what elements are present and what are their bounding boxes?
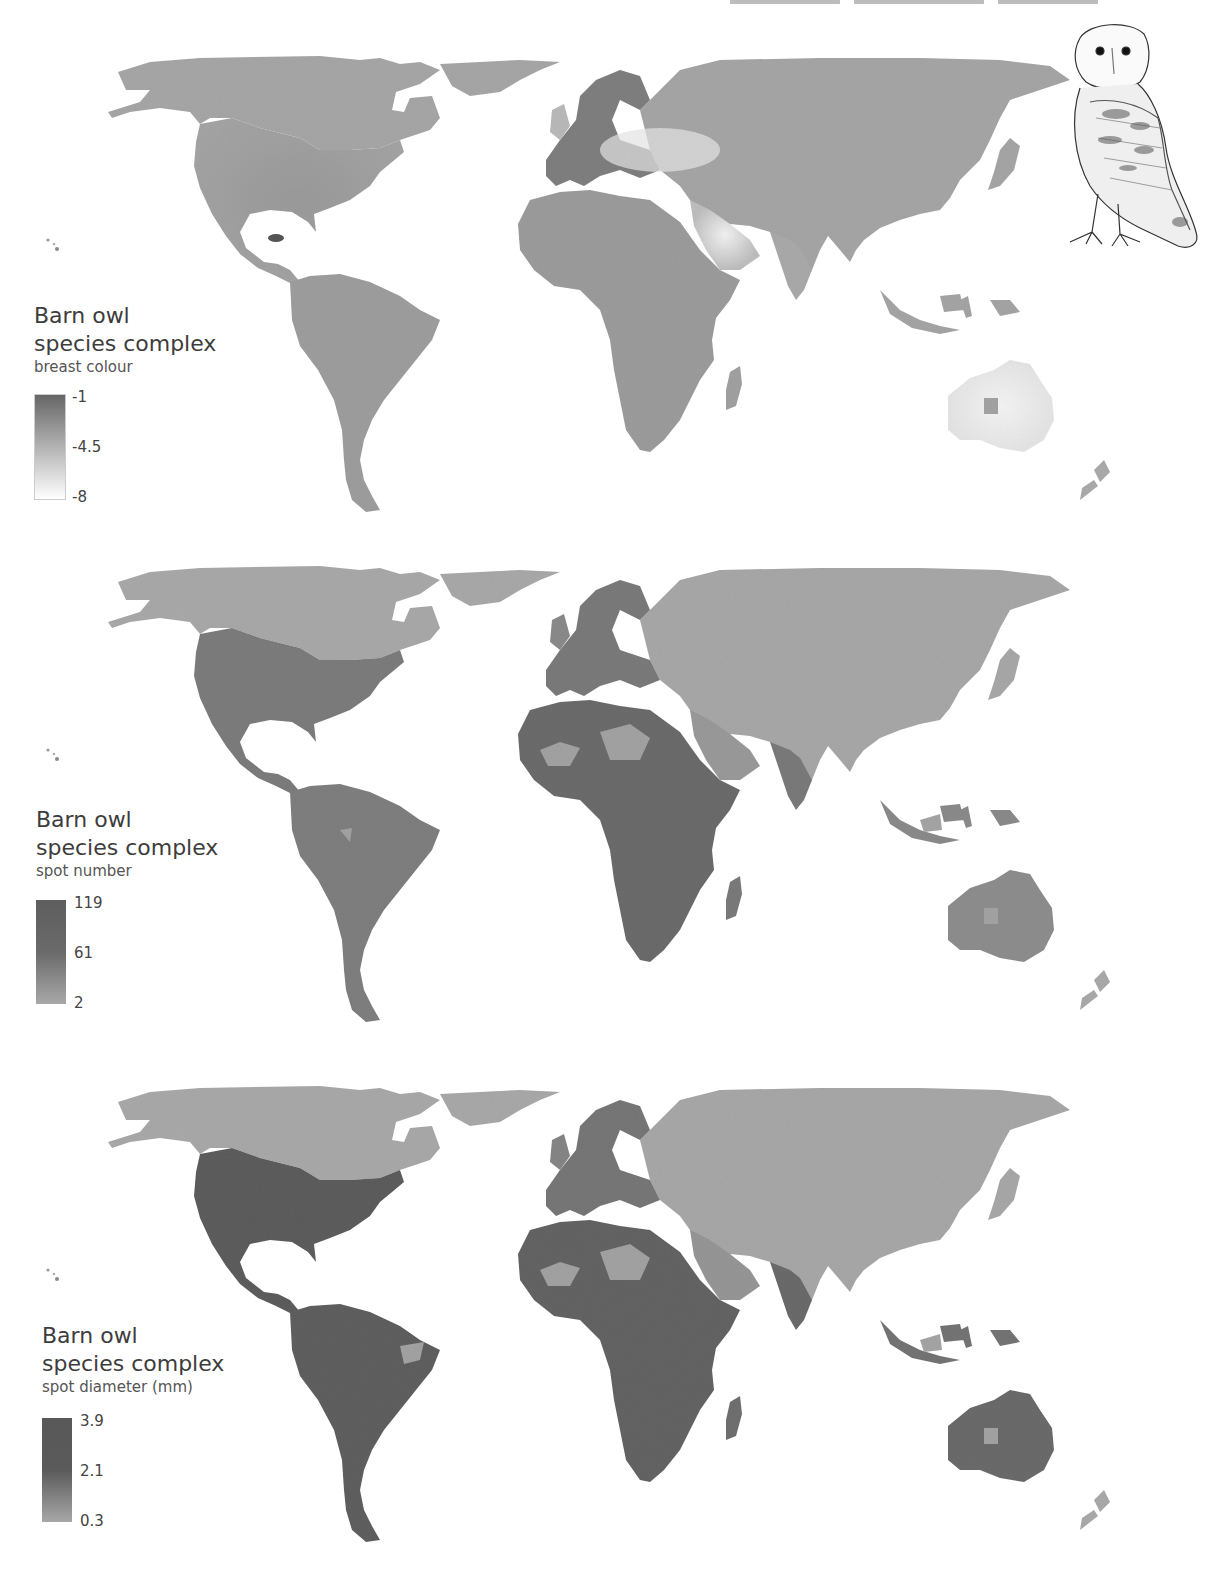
scale-tick-max: -1 [72,388,87,406]
scale-tick-mid: 61 [74,944,93,962]
color-scale-bar [36,900,66,1004]
legend-spot-diameter: Barn owl species complex spot diameter (… [42,1322,224,1528]
legend-title-line1: Barn owl [34,302,216,330]
legend-spot-number: Barn owl species complex spot number 119… [36,806,218,1010]
map-panel-spot-diameter: Barn owl species complex spot diameter (… [0,1030,1214,1586]
scale-tick-max: 3.9 [80,1412,104,1430]
scale-tick-min: -8 [72,488,87,506]
legend-title-line1: Barn owl [42,1322,224,1350]
scale-tick-mid: 2.1 [80,1462,104,1480]
legend-breast-colour: Barn owl species complex breast colour -… [34,302,216,504]
map-panel-spot-number: Barn owl species complex spot number 119… [0,510,1214,1040]
legend-title-line2: species complex [42,1350,224,1378]
legend-title-line1: Barn owl [36,806,218,834]
barn-owl-illustration [1040,18,1214,254]
color-scale-bar [34,394,66,500]
legend-variable: breast colour [34,358,216,376]
scale-tick-min: 2 [74,994,84,1012]
legend-variable: spot number [36,862,218,880]
legend-variable: spot diameter (mm) [42,1378,224,1396]
legend-title-line2: species complex [34,330,216,358]
color-scale-bar [42,1418,72,1522]
legend-title-line2: species complex [36,834,218,862]
scale-tick-mid: -4.5 [72,438,101,456]
scale-tick-max: 119 [74,894,103,912]
scale-tick-min: 0.3 [80,1512,104,1530]
map-panel-breast-colour: Barn owl species complex breast colour -… [0,0,1214,540]
